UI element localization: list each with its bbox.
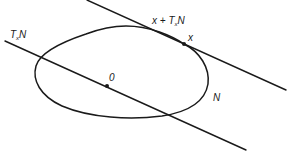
point-x-marker (182, 42, 186, 46)
label-affine-prefix: x + (152, 15, 168, 26)
label-origin: 0 (109, 73, 115, 83)
label-tangent-space: TxN (10, 30, 26, 41)
label-affine-tail: N (178, 15, 185, 26)
label-affine-tangent: x + TxN (152, 16, 185, 27)
curve-n (35, 26, 208, 118)
label-curve-n: N (213, 93, 220, 103)
figure-svg (0, 0, 292, 158)
diagram-canvas: TxN x + TxN x 0 N (0, 0, 292, 158)
origin-marker (105, 84, 109, 88)
label-tangent-space-tail: N (19, 29, 26, 40)
label-point-x: x (188, 33, 193, 43)
